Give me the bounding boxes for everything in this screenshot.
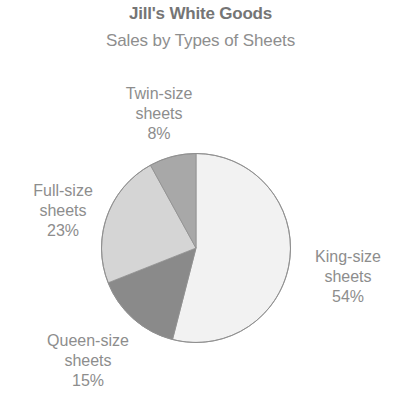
pie-slice-group	[102, 154, 291, 343]
slice-label-queen-name-line2: sheets	[18, 351, 158, 371]
slice-label-queen-name-line1: Queen-size	[18, 331, 158, 351]
slice-label-full-name-line1: Full-size	[8, 181, 118, 201]
chart-subtitle: Sales by Types of Sheets	[0, 31, 401, 51]
slice-label-full-name-line2: sheets	[8, 201, 118, 221]
slice-label-queen: Queen-size sheets 15%	[18, 331, 158, 391]
slice-label-king-name-line2: sheets	[296, 267, 400, 287]
chart-title: Jill's White Goods	[0, 4, 401, 24]
slice-label-queen-value: 15%	[18, 371, 158, 391]
slice-label-twin-name-line2: sheets	[98, 104, 220, 124]
pie-chart-figure: Jill's White Goods Sales by Types of She…	[0, 0, 401, 400]
slice-label-twin-value: 8%	[98, 124, 220, 144]
pie-chart-graphic	[101, 153, 291, 343]
slice-label-king: King-size sheets 54%	[296, 247, 400, 307]
slice-label-king-value: 54%	[296, 287, 400, 307]
slice-label-full: Full-size sheets 23%	[8, 181, 118, 241]
slice-label-twin-name-line1: Twin-size	[98, 84, 220, 104]
slice-label-full-value: 23%	[8, 221, 118, 241]
slice-label-twin: Twin-size sheets 8%	[98, 84, 220, 144]
slice-label-king-name-line1: King-size	[296, 247, 400, 267]
